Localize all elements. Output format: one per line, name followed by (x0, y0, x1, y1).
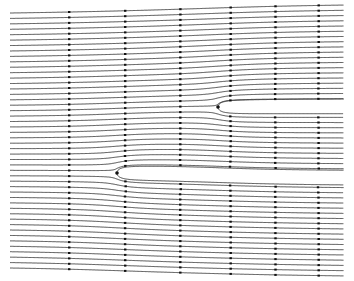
arrow-marker (274, 232, 276, 234)
arrow-marker (274, 116, 276, 118)
arrow-marker (230, 231, 232, 233)
arrow-marker (180, 188, 182, 190)
arrow-marker (124, 265, 126, 267)
arrow-marker (230, 22, 232, 24)
arrow-marker (124, 91, 126, 93)
arrow-marker (317, 77, 319, 79)
arrow-marker (317, 233, 319, 235)
arrow-marker (317, 197, 319, 199)
arrow-marker (229, 195, 231, 197)
arrow-marker (124, 10, 126, 12)
arrow-marker (124, 238, 126, 240)
arrow-marker (318, 275, 320, 277)
arrow-marker (274, 68, 276, 70)
arrow-marker (179, 62, 181, 64)
arrow-marker (229, 85, 231, 87)
arrow-marker (179, 19, 181, 21)
streamline-diagram (0, 0, 354, 281)
arrow-marker (317, 217, 319, 219)
arrow-marker (179, 40, 181, 42)
arrow-marker (318, 243, 320, 245)
arrow-marker (68, 71, 70, 73)
arrow-marker (274, 237, 276, 239)
arrow-marker (274, 186, 276, 188)
arrow-marker (179, 204, 181, 206)
arrow-marker (68, 181, 70, 183)
arrow-marker (317, 72, 319, 74)
arrow-marker (179, 219, 181, 221)
arrow-marker (68, 214, 70, 216)
arrow-marker (230, 273, 232, 275)
arrow-marker (274, 98, 276, 100)
arrow-marker (229, 156, 231, 158)
arrow-marker (68, 136, 70, 138)
arrow-marker (230, 38, 232, 40)
arrow-marker (68, 170, 70, 172)
arrow-marker (124, 270, 126, 272)
arrow-marker (124, 134, 126, 136)
arrow-marker (229, 221, 231, 223)
arrow-marker (274, 222, 276, 224)
arrow-marker (68, 93, 70, 95)
arrow-marker (124, 21, 126, 23)
arrow-marker (68, 230, 70, 232)
arrow-marker (125, 160, 127, 162)
arrow-marker (274, 11, 276, 13)
arrow-marker (124, 58, 126, 60)
arrow-marker (68, 38, 70, 40)
arrow-marker (124, 118, 126, 120)
arrow-marker (317, 127, 319, 129)
arrow-marker (124, 86, 126, 88)
arrow-marker (68, 164, 70, 166)
arrow-marker (68, 54, 70, 56)
arrow-marker (274, 52, 276, 54)
arrow-marker (274, 253, 276, 255)
arrow-marker (68, 263, 70, 265)
arrow-marker (318, 264, 320, 266)
arrow-marker (179, 143, 181, 145)
arrow-marker (179, 193, 181, 195)
arrow-marker (229, 90, 231, 92)
arrow-marker (68, 131, 70, 133)
arrow-marker (317, 137, 319, 139)
arrow-marker (124, 96, 126, 98)
arrow-marker (318, 31, 320, 33)
arrow-marker (229, 125, 231, 127)
arrow-marker (179, 106, 181, 108)
arrow-marker (124, 48, 126, 50)
arrow-marker (229, 200, 231, 202)
arrow-marker (179, 8, 181, 10)
arrow-marker (274, 274, 276, 276)
arrow-marker (179, 245, 181, 247)
arrow-marker (179, 14, 181, 16)
arrow-marker (274, 137, 276, 139)
arrow-marker (124, 64, 126, 66)
arrow-marker (274, 21, 276, 23)
arrow-marker (68, 16, 70, 18)
arrow-marker (124, 211, 126, 213)
arrow-marker (68, 109, 70, 111)
arrow-marker (230, 257, 232, 259)
arrow-marker (179, 122, 181, 124)
arrow-marker (274, 152, 276, 154)
arrow-marker (229, 145, 231, 147)
arrow-marker (317, 98, 319, 100)
arrow-marker (68, 257, 70, 259)
arrow-marker (124, 243, 126, 245)
arrow-marker (68, 98, 70, 100)
arrow-marker (229, 70, 231, 72)
arrow-marker (317, 202, 319, 204)
arrow-marker (68, 147, 70, 149)
arrow-marker (229, 99, 231, 101)
arrow-marker (68, 44, 70, 46)
arrow-marker (124, 206, 126, 208)
arrow-marker (125, 190, 127, 192)
arrow-marker (179, 100, 181, 102)
arrow-marker (274, 258, 276, 260)
arrow-marker (274, 147, 276, 149)
arrow-marker (179, 95, 181, 97)
arrow-marker (274, 32, 276, 34)
arrow-marker (179, 224, 181, 226)
arrow-marker (179, 230, 181, 232)
arrow-marker (179, 111, 181, 113)
